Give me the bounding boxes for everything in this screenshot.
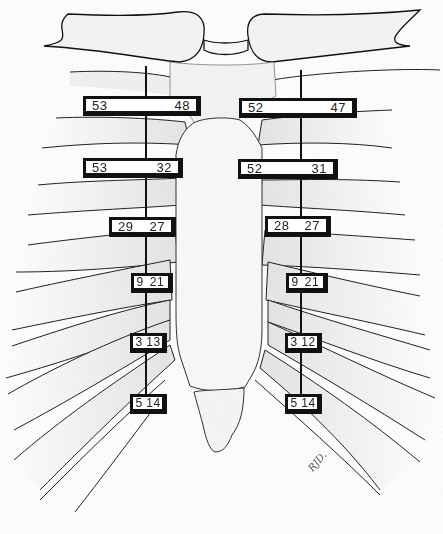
anatomy-drawing (0, 0, 443, 534)
chest-wall-diagram: 53 48 53 32 29 27 9 21 3 13 5 14 52 47 5… (0, 0, 443, 534)
right-label-4: 9 21 (286, 273, 328, 293)
left-label-6: 5 14 (130, 394, 167, 414)
left-label-2-left-value: 53 (86, 161, 132, 174)
right-label-1: 52 47 (239, 98, 357, 118)
left-label-5-left-value: 3 (133, 336, 145, 348)
left-label-4-left-value: 9 (134, 276, 146, 288)
right-label-5-left-value: 3 (288, 336, 300, 348)
right-label-3-left-value: 28 (268, 219, 297, 232)
right-label-2-left-value: 52 (241, 162, 287, 175)
left-label-4: 9 21 (131, 273, 173, 293)
right-label-5-right-value: 12 (300, 336, 317, 348)
right-label-4-left-value: 9 (289, 276, 301, 288)
right-label-2-right-value: 31 (287, 162, 333, 175)
left-label-6-left-value: 5 (133, 397, 145, 409)
left-label-3-left-value: 29 (112, 220, 142, 233)
left-label-5-right-value: 13 (145, 336, 162, 348)
right-label-3: 28 27 (265, 216, 331, 237)
right-label-6-right-value: 14 (300, 397, 317, 409)
left-label-3: 29 27 (109, 217, 176, 237)
left-label-6-right-value: 14 (145, 397, 162, 409)
right-label-6: 5 14 (285, 394, 322, 414)
right-label-2: 52 31 (238, 159, 338, 179)
left-label-2: 53 32 (83, 158, 183, 178)
left-label-1: 53 48 (83, 96, 201, 116)
left-label-1-right-value: 48 (141, 99, 196, 112)
right-label-1-left-value: 52 (242, 101, 297, 114)
left-label-2-right-value: 32 (132, 161, 178, 174)
left-label-1-left-value: 53 (86, 99, 141, 112)
left-label-5: 3 13 (130, 333, 167, 353)
right-label-3-right-value: 27 (297, 219, 326, 232)
left-label-3-right-value: 27 (142, 220, 172, 233)
right-label-6-left-value: 5 (288, 397, 300, 409)
right-label-1-right-value: 47 (297, 101, 352, 114)
left-label-4-right-value: 21 (146, 276, 168, 288)
right-label-5: 3 12 (285, 333, 322, 353)
right-label-4-right-value: 21 (301, 276, 323, 288)
